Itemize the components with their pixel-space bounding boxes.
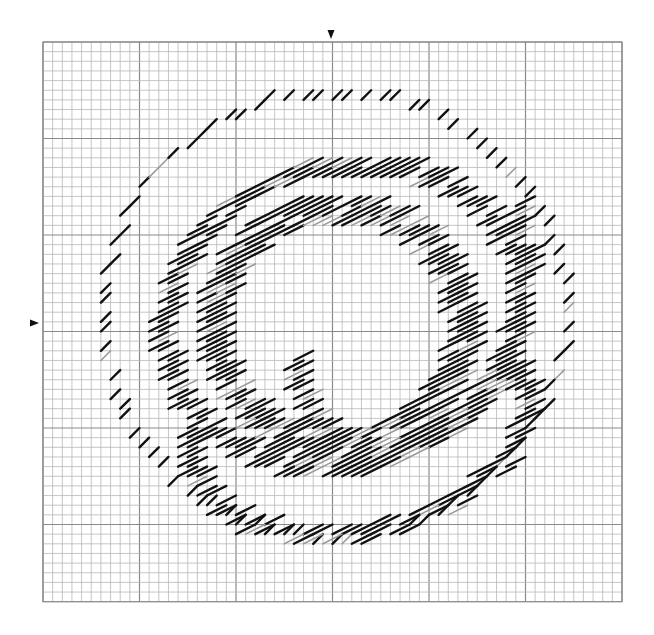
stitch-outer-ring xyxy=(120,206,130,216)
stitch-outer-ring xyxy=(168,476,178,486)
stitch-outer-ring xyxy=(545,216,555,226)
center-markers xyxy=(30,30,335,327)
stitch-layer xyxy=(101,90,574,544)
stitch-outer-ring xyxy=(207,496,217,506)
stitch-outer-ring xyxy=(342,90,352,100)
stitch-outer-ring xyxy=(168,148,178,158)
stitch-outer-ring xyxy=(554,245,564,255)
stitch-outer-ring xyxy=(226,110,236,120)
stitch-outer-ring xyxy=(111,235,121,245)
stitch-outer-ring xyxy=(120,399,130,409)
stitch-outer-ring xyxy=(197,129,207,139)
stitch-outer-ring xyxy=(554,370,564,380)
stitch-outer-ring xyxy=(564,322,574,332)
stitch-outer-ring xyxy=(101,312,111,322)
stitch-outer-ring xyxy=(477,139,487,149)
stitch-outer-ring xyxy=(419,100,429,110)
stitch-outer-ring xyxy=(535,206,545,216)
stitch-outer-ring xyxy=(140,438,150,448)
stitch-outer-ring xyxy=(111,370,121,380)
stitch-outer-ring xyxy=(439,110,449,120)
stitch-outer-ring xyxy=(207,119,217,129)
stitch-outer-ring xyxy=(197,496,207,506)
stitch-outer-ring xyxy=(333,90,343,100)
stitch-outer-ring xyxy=(294,525,304,535)
stitch-outer-ring xyxy=(554,351,564,361)
stitch-outer-ring xyxy=(545,235,555,245)
stitch-outer-ring xyxy=(120,409,130,419)
stitch-outer-ring xyxy=(101,264,111,274)
stitch-outer-ring xyxy=(188,486,198,496)
stitch-outer-ring xyxy=(130,196,140,206)
stitch-outer-ring xyxy=(265,90,275,100)
stitch-outer-ring xyxy=(516,177,526,187)
stitch-outer-ring xyxy=(101,351,111,361)
stitch-outer-ring xyxy=(149,167,159,177)
stitch-outer-ring xyxy=(111,254,121,264)
stitch-outer-ring xyxy=(448,119,458,129)
center-row-arrow-icon xyxy=(30,320,39,327)
stitch-outer-ring xyxy=(497,158,507,168)
stitch-outer-ring xyxy=(564,293,574,303)
stitch-outer-ring xyxy=(130,428,140,438)
stitch-outer-ring xyxy=(101,322,111,332)
stitch-outer-ring xyxy=(361,90,371,100)
stitch-outer-ring xyxy=(120,225,130,235)
stitch-outer-ring xyxy=(554,264,564,274)
stitch-outer-ring xyxy=(188,139,198,149)
stitch-outer-ring xyxy=(564,274,574,284)
stitch-outer-ring xyxy=(304,90,314,100)
stitch-outer-ring xyxy=(410,100,420,110)
center-column-arrow-icon xyxy=(328,30,335,39)
stitch-outer-ring xyxy=(101,341,111,351)
stitch-outer-ring xyxy=(101,283,111,293)
stitch-outer-ring xyxy=(381,90,391,100)
stitch-outer-ring xyxy=(111,389,121,399)
stitch-outer-ring xyxy=(526,187,536,197)
stitch-outer-ring xyxy=(487,148,497,158)
stitch-outer-ring xyxy=(342,534,352,544)
stitch-outer-ring xyxy=(390,90,400,100)
stitch-outer-ring xyxy=(545,399,555,409)
stitch-outer-ring xyxy=(236,110,246,120)
stitch-outer-ring xyxy=(506,167,516,177)
stitch-outer-ring xyxy=(545,380,555,390)
stitch-chart xyxy=(0,0,654,635)
stitch-outer-ring xyxy=(255,100,265,110)
stitch-outer-ring xyxy=(140,177,150,187)
stitch-outer-ring xyxy=(313,90,323,100)
stitch-outer-ring xyxy=(526,418,536,428)
stitch-outer-ring xyxy=(468,129,478,139)
stitch-outer-ring xyxy=(159,457,169,467)
stitch-outer-ring xyxy=(564,303,574,313)
stitch-outer-ring xyxy=(101,293,111,303)
stitch-outer-ring xyxy=(564,341,574,351)
stitch-outer-ring xyxy=(149,447,159,457)
stitch-outer-ring xyxy=(159,158,169,168)
stitch-outer-ring xyxy=(284,90,294,100)
stitch-outer-ring xyxy=(419,515,429,525)
